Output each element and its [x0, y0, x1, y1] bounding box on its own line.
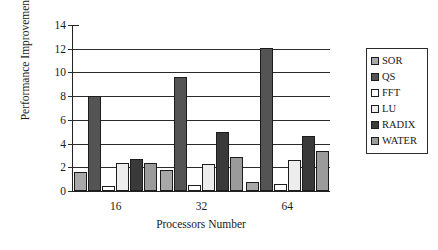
bar-groups	[73, 25, 330, 191]
bar-qs[interactable]	[260, 48, 273, 191]
legend-swatch-icon	[371, 89, 379, 97]
x-axis-title: Processors Number	[72, 218, 330, 230]
legend-swatch-icon	[371, 137, 379, 145]
legend-label: QS	[382, 72, 395, 82]
y-axis-tick-label: 8	[60, 90, 66, 102]
bar-water[interactable]	[316, 151, 329, 191]
legend-item-qs[interactable]: QS	[371, 69, 424, 85]
bar-sor[interactable]	[160, 170, 173, 191]
bar-fft[interactable]	[274, 184, 287, 191]
bar-group	[244, 25, 330, 191]
bar-water[interactable]	[230, 157, 243, 191]
bar-qs[interactable]	[174, 77, 187, 191]
legend-swatch-icon	[371, 105, 379, 113]
legend-item-fft[interactable]: FFT	[371, 85, 424, 101]
x-axis-tick-label: 32	[196, 200, 208, 212]
bar-fft[interactable]	[102, 186, 115, 191]
legend-swatch-icon	[371, 73, 379, 81]
y-axis-tick-label: 2	[60, 161, 66, 173]
bar-lu[interactable]	[116, 163, 129, 191]
plot-area: 02468101214 163264	[72, 25, 330, 192]
legend-item-water[interactable]: WATER	[371, 133, 424, 149]
bar-fft[interactable]	[188, 185, 201, 191]
bar-water[interactable]	[144, 163, 157, 191]
bar-radix[interactable]	[130, 159, 143, 191]
y-axis-tick	[68, 191, 73, 192]
y-axis-tick-label: 4	[60, 138, 66, 150]
bar-group	[159, 25, 245, 191]
legend-item-sor[interactable]: SOR	[371, 53, 424, 69]
legend-swatch-icon	[371, 121, 379, 129]
legend-label: FFT	[382, 88, 400, 98]
chart-figure: Performance Improvement Ratio(%) 0246810…	[0, 0, 438, 250]
legend-item-radix[interactable]: RADIX	[371, 117, 424, 133]
legend-label: RADIX	[382, 120, 415, 130]
y-axis-tick-label: 12	[55, 43, 67, 55]
bar-qs[interactable]	[88, 96, 101, 191]
x-axis-tick-label: 64	[281, 200, 293, 212]
bar-sor[interactable]	[74, 172, 87, 191]
legend: SORQSFFTLURADIXWATER	[366, 48, 428, 154]
legend-item-lu[interactable]: LU	[371, 101, 424, 117]
y-axis-tick-label: 0	[60, 185, 66, 197]
legend-label: LU	[382, 104, 396, 114]
bar-group	[73, 25, 159, 191]
bar-radix[interactable]	[216, 132, 229, 191]
bar-lu[interactable]	[288, 160, 301, 191]
y-axis-title: Performance Improvement Ratio(%)	[16, 0, 34, 124]
bar-radix[interactable]	[302, 136, 315, 191]
bar-sor[interactable]	[246, 182, 259, 191]
x-axis-tick-label: 16	[110, 200, 122, 212]
legend-swatch-icon	[371, 57, 379, 65]
y-axis-tick-label: 14	[55, 19, 67, 31]
y-axis-tick-label: 6	[60, 114, 66, 126]
y-axis-tick-label: 10	[55, 66, 67, 78]
legend-label: WATER	[382, 136, 417, 146]
bar-lu[interactable]	[202, 164, 215, 191]
legend-label: SOR	[382, 56, 402, 66]
